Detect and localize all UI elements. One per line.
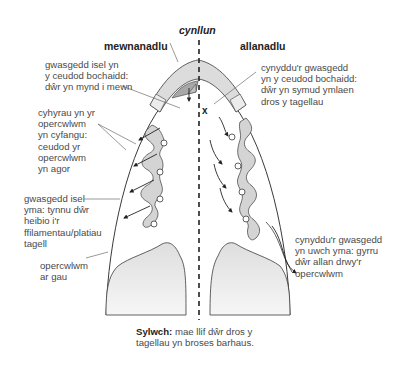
note: Sylwch: mae llif dŵr dros y tagellau yn …	[136, 326, 254, 348]
fish-head-diagram: x	[0, 0, 403, 365]
right-label-operculum: cynyddu'r gwasgedd yn uwch yma: gyrru dŵ…	[295, 234, 382, 279]
left-label-buccal: gwasgedd isel yn y ceudod bochaidd: dŵr …	[45, 59, 132, 93]
left-title: mewnanadlu	[104, 40, 168, 52]
left-label-muscles: cyhyrau yn yr opercwlwm yn cyfangu: ceud…	[38, 107, 95, 174]
right-label-buccal: cynyddu'r gwasgedd yn y ceudod bochaidd:…	[261, 62, 357, 107]
left-label-low-pressure: gwasgedd isel yma: tynnu dŵr heibio i'r …	[24, 193, 102, 249]
center-label: cynllun	[179, 24, 216, 36]
left-operculum	[106, 243, 186, 315]
left-gill-arches	[141, 125, 164, 227]
mouth-band	[150, 60, 246, 112]
right-operculum	[210, 243, 290, 315]
right-title: allanadlu	[240, 40, 286, 52]
x-marker: x	[202, 105, 208, 116]
left-label-operculum-closed: opercwlwm ar gau	[40, 260, 88, 282]
note-bold: Sylwch:	[136, 326, 172, 337]
right-gill-arches	[237, 118, 259, 240]
